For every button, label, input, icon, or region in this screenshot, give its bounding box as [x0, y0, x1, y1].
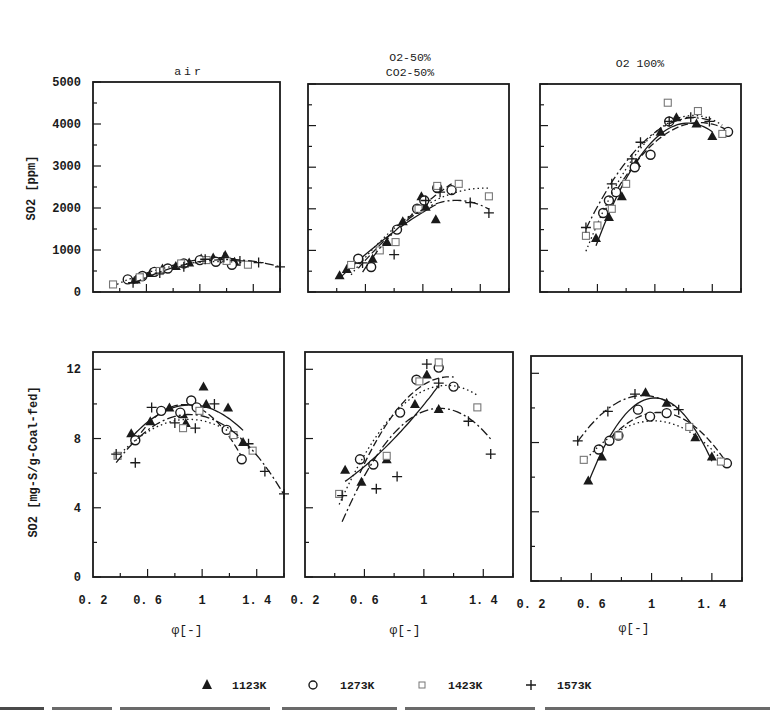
legend-item-1123k: 1123K [202, 679, 267, 692]
open-circle-marker [612, 188, 621, 197]
x-tick-label: 1 [648, 598, 655, 612]
x-tick-label: 0. 2 [517, 598, 546, 612]
filled-triangle-marker [199, 382, 209, 391]
open-circle-marker [355, 455, 364, 464]
plus-marker [275, 262, 285, 272]
open-square-marker [686, 423, 693, 430]
y-tick-label: 0 [74, 571, 81, 585]
open-circle-marker [646, 150, 655, 159]
x-tick-label: 1. 4 [469, 594, 498, 608]
plus-marker [279, 489, 289, 499]
plus-icon [526, 680, 536, 690]
trend-line-1123k [345, 386, 439, 482]
open-circle-marker [605, 436, 614, 445]
open-square-icon [419, 682, 425, 688]
open-square-marker [580, 456, 587, 463]
x-tick-label: 0. 6 [577, 598, 606, 612]
plus-marker [389, 250, 399, 260]
plot-panel-top-right [540, 84, 741, 292]
x-tick-label: 0. 2 [79, 594, 108, 608]
panel-title-co2-50: CO2-50% [386, 66, 434, 79]
plus-marker [130, 458, 140, 468]
filled-triangle-marker [431, 214, 441, 223]
filled-triangle-marker [583, 476, 593, 485]
open-square-marker [623, 180, 630, 187]
filled-triangle-marker [356, 477, 366, 486]
x-tick-label: 1 [199, 594, 206, 608]
legend-label-1273k: 1273K [340, 679, 375, 692]
legend-item-1273k: 1273K [309, 679, 375, 692]
open-square-marker [719, 130, 726, 137]
open-square-marker [196, 407, 203, 414]
plus-marker [392, 472, 402, 482]
open-circle-marker [237, 455, 246, 464]
open-circle-marker [396, 408, 405, 417]
y-tick-label: 1000 [52, 244, 81, 258]
x-axis-label-right: φ[-] [618, 621, 649, 636]
filled-triangle-marker [422, 370, 432, 379]
trend-line-1573k [116, 415, 284, 495]
x-tick-label: 1. 4 [242, 594, 271, 608]
open-square-marker [435, 359, 442, 366]
open-square-marker [383, 452, 390, 459]
open-circle-marker [211, 257, 220, 266]
open-square-marker [110, 281, 117, 288]
trend-line-1573k [578, 396, 679, 442]
y-tick-label: 12 [67, 363, 81, 377]
x-tick-label: 0. 2 [291, 594, 320, 608]
x-tick-label: 0. 6 [350, 594, 379, 608]
plot-panel-bottom-middle: 0. 20. 611. 4 [291, 352, 513, 608]
trend-line-1123k [596, 123, 712, 246]
plot-panel-top-middle [308, 84, 509, 292]
open-square-marker [203, 257, 210, 264]
plus-marker [463, 416, 473, 426]
plus-marker [484, 208, 494, 218]
legend-label-1573k: 1573K [557, 679, 592, 692]
x-tick-label: 1 [420, 594, 427, 608]
plot-panel-bottom-left: 048120. 20. 611. 4 [67, 352, 289, 608]
plus-marker [422, 359, 432, 369]
y-axis-label-mgS: SO2 [mg-S/g-Coal-fed] [27, 386, 41, 537]
plus-marker [371, 484, 381, 494]
open-square-marker [392, 239, 399, 246]
open-circle-marker [630, 163, 639, 172]
filled-triangle-marker [340, 465, 350, 474]
open-circle-marker [662, 409, 671, 418]
panel-title-o2-100: O2 100% [616, 57, 664, 70]
open-square-marker [244, 261, 251, 268]
plus-marker [581, 223, 591, 233]
open-circle-marker [157, 406, 166, 415]
open-circle-marker [449, 382, 458, 391]
plot-panels: 010002000300040005000048120. 20. 611. 40… [52, 76, 742, 612]
plot-panel-bottom-right: 0. 20. 611. 4 [517, 356, 742, 612]
open-square-marker [694, 108, 701, 115]
open-square-marker [180, 425, 187, 432]
trend-line-1423k [586, 116, 722, 252]
open-square-marker [594, 222, 601, 229]
plus-marker [254, 258, 264, 268]
open-circle-marker [599, 208, 608, 217]
x-tick-label: 1. 4 [697, 598, 726, 612]
open-circle-marker [594, 445, 603, 454]
open-square-marker [717, 458, 724, 465]
legend-item-1423k: 1423K [419, 679, 483, 692]
x-axis-label-left: φ[-] [171, 623, 202, 638]
filled-triangle-marker [707, 131, 717, 140]
open-circle-marker [604, 196, 613, 205]
plus-marker [636, 137, 646, 147]
x-tick-label: 0. 6 [133, 594, 162, 608]
plus-marker [603, 406, 613, 416]
open-square-marker [485, 193, 492, 200]
plot-frame [531, 356, 742, 581]
open-circle-icon [309, 681, 317, 689]
panel-title-air: air [174, 65, 204, 78]
y-axis-label-ppm: SO2 [ppm] [25, 156, 39, 221]
open-square-marker [474, 404, 481, 411]
plus-marker [260, 466, 270, 476]
open-square-marker [348, 261, 355, 268]
open-square-marker [455, 180, 462, 187]
y-tick-label: 4000 [52, 118, 81, 132]
filled-triangle-icon [202, 679, 212, 689]
legend-label-1123k: 1123K [232, 679, 267, 692]
plus-marker [190, 423, 200, 433]
